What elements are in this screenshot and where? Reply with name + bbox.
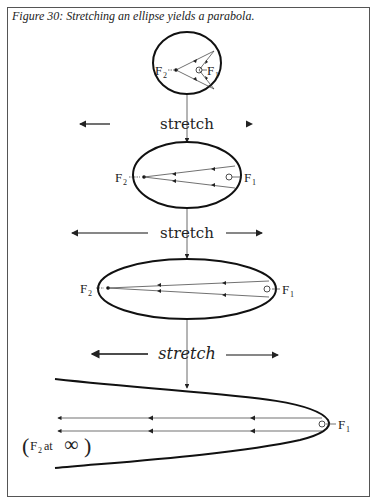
svg-text:1: 1 [252, 178, 256, 187]
stage-2-ellipse: F 2 F 1 [115, 142, 256, 208]
infinity-icon: ∞ [64, 433, 78, 455]
stage-1-ellipse: F 2 F 1 [153, 32, 221, 94]
stretch-row-2: stretch [72, 224, 262, 242]
f2-label: F [155, 63, 162, 78]
svg-text:1: 1 [346, 425, 350, 434]
svg-text:(: ( [22, 433, 29, 458]
stretch-row-1: stretch [80, 115, 252, 133]
svg-text:2: 2 [38, 446, 42, 455]
stretch-row-3: stretch [92, 344, 278, 363]
stretch-diagram: F 2 F 1 stretch F 2 F 1 stretch [0, 0, 374, 501]
f2-at-infinity-note: ( F 2 at ∞ ) [22, 433, 91, 458]
f1-label: F [282, 282, 289, 297]
svg-text:at: at [44, 439, 53, 453]
svg-text:1: 1 [215, 71, 219, 80]
f1-label: F [244, 170, 251, 185]
stretch-label-2: stretch [160, 224, 214, 242]
stretch-label-3: stretch [158, 344, 215, 363]
svg-text:F: F [30, 438, 37, 453]
svg-text:2: 2 [123, 178, 127, 187]
stretch-label-1: stretch [160, 115, 214, 133]
svg-text:2: 2 [88, 289, 92, 298]
stage-4-parabola: F 1 [55, 379, 350, 468]
f2-label: F [80, 281, 87, 296]
stage-3-ellipse: F 2 F 1 [80, 259, 294, 319]
f1-label: F [338, 417, 345, 432]
f1-label: F [207, 63, 214, 78]
svg-text:): ) [84, 433, 91, 458]
f2-label: F [115, 170, 122, 185]
svg-text:2: 2 [163, 71, 167, 80]
svg-text:1: 1 [290, 290, 294, 299]
